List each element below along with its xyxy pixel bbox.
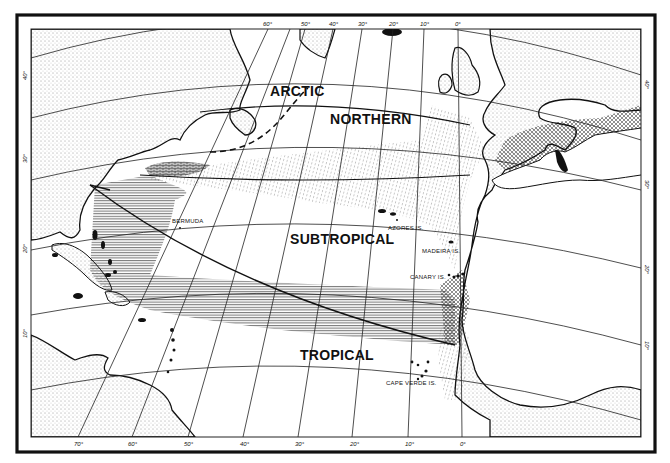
- newfoundland: [230, 108, 256, 135]
- zone-label-subtropical: SUBTROPICAL: [290, 231, 395, 247]
- europe-africa: [455, 29, 641, 437]
- place-label-madeira: MADEIRA IS.: [422, 248, 460, 254]
- longitude-ticks-bottom: 70° 60° 50° 40° 30° 20° 10° 0°: [74, 441, 466, 447]
- zone-label-tropical: TROPICAL: [300, 347, 374, 363]
- place-label-canary: CANARY IS.: [410, 274, 446, 280]
- place-label-bermuda: BERMUDA: [172, 218, 203, 224]
- svg-text:50°: 50°: [184, 441, 194, 447]
- svg-text:20°: 20°: [388, 21, 399, 27]
- svg-text:10°: 10°: [644, 341, 650, 351]
- svg-text:60°: 60°: [263, 21, 273, 27]
- lesser-antilles: [167, 328, 176, 373]
- svg-text:30°: 30°: [644, 180, 650, 190]
- svg-text:20°: 20°: [349, 441, 360, 447]
- latitude-ticks-right: 40° 30° 20° 10°: [644, 80, 650, 351]
- ireland: [439, 74, 452, 93]
- svg-text:40°: 40°: [329, 21, 339, 27]
- longitude-ticks-top: 60° 50° 40° 30° 20° 10° 0°: [263, 21, 461, 27]
- svg-text:60°: 60°: [128, 441, 138, 447]
- svg-text:40°: 40°: [22, 70, 28, 80]
- svg-text:40°: 40°: [644, 80, 650, 90]
- place-label-cape-verde: CAPE VERDE IS.: [386, 380, 437, 386]
- svg-text:20°: 20°: [22, 243, 28, 254]
- madeira-island: [449, 240, 454, 243]
- svg-text:30°: 30°: [22, 153, 28, 163]
- great-britain: [452, 47, 480, 95]
- svg-text:20°: 20°: [644, 264, 650, 275]
- svg-text:50°: 50°: [301, 21, 311, 27]
- svg-text:70°: 70°: [74, 441, 84, 447]
- iceland: [382, 28, 402, 36]
- svg-text:0°: 0°: [455, 21, 461, 27]
- svg-text:10°: 10°: [22, 328, 28, 338]
- zone-label-arctic: ARCTIC: [270, 83, 325, 99]
- place-label-azores: AZORES IS.: [388, 225, 424, 231]
- svg-text:10°: 10°: [420, 21, 430, 27]
- puerto-rico: [138, 318, 146, 322]
- south-america: [31, 335, 195, 437]
- latitude-ticks-left: 40° 30° 20° 10°: [22, 70, 28, 338]
- cape-verde-islands: [411, 361, 430, 381]
- north-atlantic-zone-map: ARCTIC NORTHERN SUBTROPICAL TROPICAL BER…: [0, 0, 670, 463]
- svg-text:30°: 30°: [358, 21, 368, 27]
- svg-text:10°: 10°: [405, 441, 415, 447]
- jamaica: [73, 293, 83, 299]
- zone-label-northern: NORTHERN: [330, 111, 412, 127]
- svg-text:30°: 30°: [295, 441, 305, 447]
- svg-text:40°: 40°: [240, 441, 250, 447]
- svg-text:0°: 0°: [460, 441, 466, 447]
